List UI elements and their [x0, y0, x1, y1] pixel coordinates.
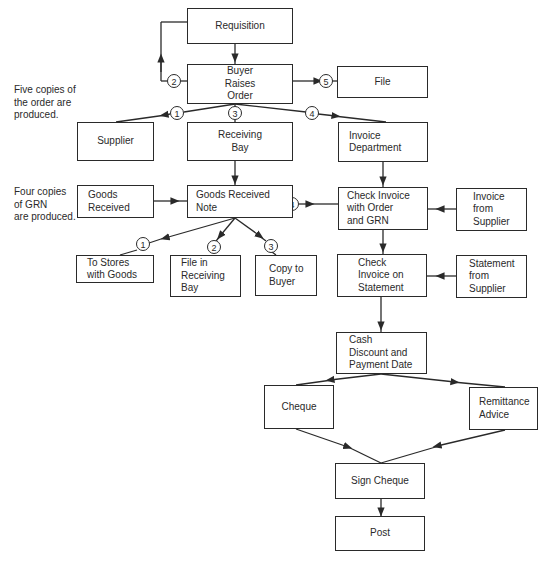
node-label: Requisition — [215, 20, 264, 33]
node-goods-received: Goods Received — [77, 185, 154, 218]
order-copies-note: Five copies of the order are produced. — [14, 84, 76, 122]
order-copy-4-label: 4 — [309, 109, 314, 119]
node-statement-from-supplier: Statement from Supplier — [456, 255, 527, 298]
node-invoice-department: Invoice Department — [338, 122, 428, 162]
node-receiving-bay: Receiving Bay — [187, 122, 293, 161]
order-copy-2-label: 2 — [171, 77, 176, 87]
node-to-stores-with-goods: To Stores with Goods — [76, 255, 154, 283]
node-label: Receiving Bay — [218, 129, 262, 154]
node-check-invoice-statement: Check Invoice on Statement — [337, 254, 427, 297]
flowchart-canvas: 2 5 1 3 4 4 1 2 3 Five copies of the ord… — [0, 0, 552, 563]
node-label: Cash Discount and Payment Date — [349, 334, 412, 372]
node-buyer-raises-order: Buyer Raises Order — [187, 64, 293, 104]
node-invoice-from-supplier: Invoice from Supplier — [456, 188, 527, 231]
node-label: Supplier — [97, 135, 134, 148]
node-remittance-advice: Remittance Advice — [469, 387, 538, 430]
node-post: Post — [335, 516, 425, 551]
node-label: Buyer Raises Order — [225, 65, 256, 103]
node-cash-discount-payment-date: Cash Discount and Payment Date — [336, 332, 427, 374]
order-copy-1-label: 1 — [174, 109, 179, 119]
order-copy-3-label: 3 — [232, 109, 237, 119]
node-requisition: Requisition — [187, 8, 293, 44]
grn-copy-2-label: 2 — [211, 243, 216, 253]
node-file-in-receiving-bay: File in Receiving Bay — [170, 255, 241, 297]
order-copy-5-label: 5 — [323, 77, 328, 87]
node-label: Invoice Department — [349, 130, 401, 155]
node-label: Goods Received — [88, 189, 130, 214]
grn-copy-1-label: 1 — [140, 240, 145, 250]
node-file: File — [337, 66, 428, 98]
node-label: Goods Received Note — [196, 189, 270, 214]
node-label: Sign Cheque — [351, 475, 409, 488]
grn-copies-note: Four copies of GRN are produced. — [14, 186, 76, 224]
node-sign-cheque: Sign Cheque — [335, 463, 425, 499]
node-copy-to-buyer: Copy to Buyer — [255, 255, 317, 296]
node-goods-received-note: Goods Received Note — [187, 185, 293, 218]
node-check-invoice-order-grn: Check Invoice with Order and GRN — [338, 187, 428, 230]
node-label: Remittance Advice — [479, 396, 530, 421]
node-label: Check Invoice with Order and GRN — [347, 190, 410, 228]
node-label: Invoice from Supplier — [473, 191, 510, 229]
node-supplier: Supplier — [77, 122, 154, 161]
node-label: Post — [370, 527, 390, 540]
node-label: Check Invoice on Statement — [358, 257, 404, 295]
node-label: Copy to Buyer — [269, 263, 303, 288]
node-cheque: Cheque — [264, 385, 334, 429]
node-label: Cheque — [281, 401, 316, 414]
grn-copy-3-label: 3 — [268, 242, 273, 252]
node-label: To Stores with Goods — [87, 257, 137, 282]
node-label: File in Receiving Bay — [181, 257, 225, 295]
node-label: Statement from Supplier — [469, 258, 515, 296]
node-label: File — [374, 76, 390, 89]
